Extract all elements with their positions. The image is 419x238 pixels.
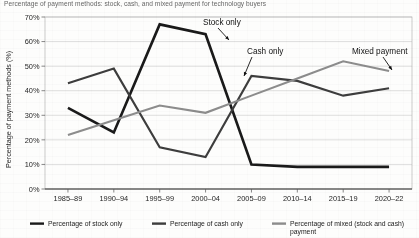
- legend-label: Percentage of mixed (stock and cash): [290, 220, 404, 228]
- series-group: [68, 24, 389, 167]
- legend-label: Percentage of cash only: [170, 220, 244, 228]
- x-tick-label: 2015–19: [329, 194, 358, 203]
- legend-label-wrap: payment: [290, 228, 316, 236]
- y-axis-title: Percentage of payment methods (%): [4, 51, 13, 168]
- y-tick-label: 40%: [25, 86, 40, 95]
- chart-figure: Percentage of payment methods (%) 0%10%2…: [0, 0, 419, 238]
- y-tick-label: 30%: [25, 111, 40, 120]
- annotation-label: Stock only: [203, 18, 242, 27]
- x-tick-label: 2005–09: [237, 194, 266, 203]
- y-axis-ticks: 0%10%20%30%40%50%60%70%: [25, 13, 45, 194]
- x-tick-label: 2000–04: [191, 194, 220, 203]
- y-tick-label: 20%: [25, 136, 40, 145]
- x-tick-label: 1995–99: [145, 194, 174, 203]
- y-tick-label: 0%: [29, 185, 40, 194]
- x-tick-label: 1990–94: [99, 194, 128, 203]
- x-tick-label: 1985–89: [54, 194, 83, 203]
- series-line: [68, 69, 389, 157]
- annotation-arrowhead: [388, 66, 392, 70]
- annotations-group: Stock onlyCash onlyMixed payment: [203, 18, 408, 76]
- y-tick-label: 50%: [25, 62, 40, 71]
- x-tick-label: 2020–22: [375, 194, 404, 203]
- y-tick-label: 70%: [25, 13, 40, 22]
- y-tick-label: 10%: [25, 160, 40, 169]
- y-tick-label: 60%: [25, 37, 40, 46]
- annotation-label: Mixed payment: [352, 47, 408, 56]
- x-tick-label: 2010–14: [283, 194, 312, 203]
- annotation-label: Cash only: [247, 47, 284, 56]
- line-chart: Percentage of payment methods (%) 0%10%2…: [0, 0, 419, 238]
- x-axis-ticks: 1985–891990–941995–992000–042005–092010–…: [54, 189, 404, 203]
- legend-group: Percentage of stock onlyPercentage of ca…: [30, 220, 404, 236]
- legend-label: Percentage of stock only: [48, 220, 123, 228]
